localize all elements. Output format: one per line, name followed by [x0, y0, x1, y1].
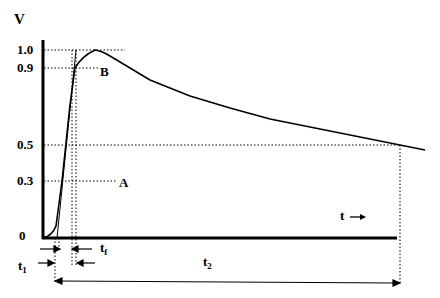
x-axis-arrow-icon — [350, 214, 366, 220]
t2-label: t2 — [203, 254, 212, 271]
point-a-label: A — [119, 175, 129, 190]
y-tick-1-0: 1.0 — [17, 42, 33, 57]
y-tick-0-5: 0.5 — [17, 137, 34, 152]
t1-label: t1 — [18, 258, 27, 275]
tf-arrows — [40, 246, 92, 252]
impulse-waveform-diagram: V 1.0 0.9 0.5 0.3 0 B A t tf — [0, 0, 440, 298]
y-tick-0: 0 — [19, 228, 26, 243]
t1-arrows — [38, 260, 95, 266]
x-axis-label: t — [340, 208, 345, 223]
tf-label: tf — [100, 240, 108, 257]
t2-arrow — [55, 278, 400, 286]
y-tick-0-9: 0.9 — [17, 60, 34, 75]
reference-lines — [44, 50, 400, 284]
point-b-label: B — [100, 64, 109, 79]
y-axis-label: V — [14, 11, 25, 27]
y-tick-0-3: 0.3 — [17, 173, 34, 188]
